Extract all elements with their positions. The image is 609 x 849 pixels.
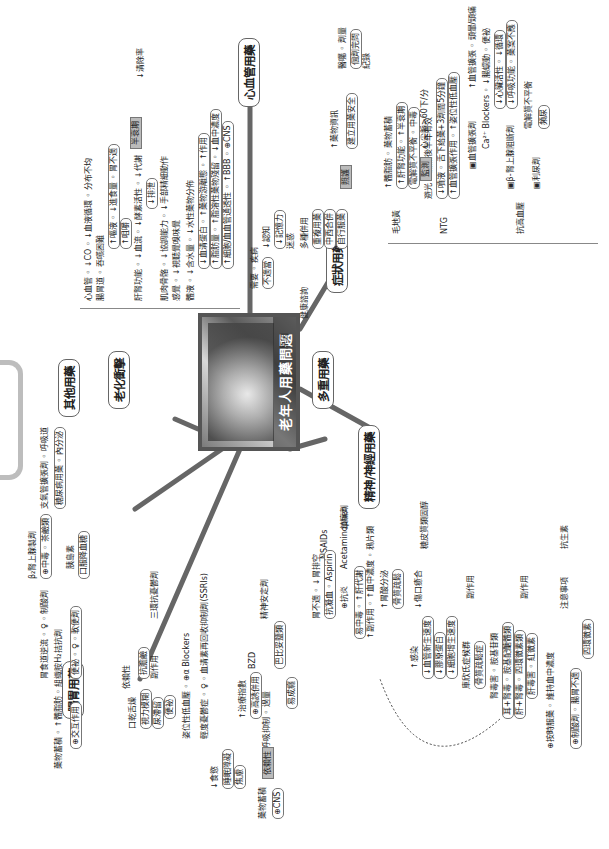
psych-bzd-item-1: ↑治療指數	[238, 680, 248, 719]
psych-tca-item-1: 口乾舌燥	[128, 697, 138, 729]
psych-tca-item-4: 便祕	[164, 695, 176, 719]
psych-tca-anticholinergic: 抗膽鹼	[138, 647, 150, 679]
cardio-antihtn: 抗高血壓	[516, 202, 526, 234]
symptom-nsaid-item-1: 胃不適 ◦ ↓胃排空	[312, 554, 322, 619]
cardio-ntg-item-3: ↑血管擴張作用 ◦ ↑姿位性低血壓	[448, 72, 460, 199]
cardio-ntg: NTG	[440, 217, 450, 234]
symptom-wound-item-4: ↓細胞增生速度	[446, 616, 458, 679]
psych-bzd-item-3: 呼吸抑制 ◦ 過量	[262, 691, 272, 749]
aging-row-7: 肌肉骨骼 ◦ ↓協調能力 ◦ ↓手部精細動作	[160, 156, 170, 301]
symptom-wound: ↓傷口癒合	[414, 570, 424, 609]
symptom-abx-note: 注意事項	[560, 577, 570, 609]
psych-dep-arrow-label: 依賴性	[122, 665, 132, 689]
psych-dependence: 依賴性	[262, 747, 274, 779]
aging-row-11: ↑脂肪量 ◦ ↑脂溶性藥物殘留 ◦ ↓血中濃度	[210, 109, 222, 269]
gi-row-2: 藥物蓄積 ◦ ↑體脂肪 ◦ 組織胺H₂拮抗劑	[54, 629, 64, 769]
poly-improper-item-1: ↓認知	[262, 226, 272, 249]
aging-row-5: 肝腎功能 ◦ ↓血流 ◦ ↓酵素活性 ◦ ↓代謝	[134, 155, 144, 301]
topic-psych[interactable]: 精神/神經用藥	[358, 425, 380, 509]
poly-improper-item-2: ↓記憶力	[274, 210, 286, 249]
poly-edu-item-3: 中西合併	[324, 209, 336, 249]
poly-care-item-1: ↑藥物資訊	[330, 110, 340, 149]
aging-row-9: 體液 ◦ ↓含水量 ◦ ↓水性藥物分佈	[186, 180, 196, 301]
symptom-steroid-side-item-1: 庫欣氏症候群	[462, 641, 472, 689]
cardio-digoxin-item-2: ↑肝腎功能 ◦ ↑半衰期	[396, 102, 408, 189]
symptom-antibiotic: 抗生素	[560, 525, 570, 549]
symptom-abx-side-item-4: 肝毒害 ◦ 紅黴素	[526, 633, 538, 699]
symptom-steroid: 糖皮質類固醇	[420, 501, 430, 549]
psych-ssri: 輕度憂鬱症 ◦ ♀ ◦ 血清素再回收抑制劑(SSRIs)	[200, 573, 210, 739]
psych-tca-ortho: 姿位性低血壓 ◦ ⊕α Blockers	[182, 633, 192, 739]
psych-ssri-item-3: 焦慮	[234, 765, 246, 789]
poly-improper: 不適當	[262, 257, 274, 289]
cardio-diuretic: ▣利尿劑	[532, 157, 542, 189]
symptom-abx-note-item-2: ⊕制酸劑 ◦ 腸胃不適	[570, 668, 582, 749]
poly-safety-item-2: 個劑完問	[350, 29, 362, 69]
symptom-abx-side-item-3: 肝+腎毒 ◦ 四環黴素類	[514, 630, 526, 719]
symptom-abx-side-item-2: 耳+腎毒 ◦ 胺基配醣體類	[502, 622, 514, 719]
symptom-abx-side: 副作用	[520, 575, 530, 599]
aging-row-2: 腸胃道 ◦ 吞嚥困難	[96, 235, 106, 301]
cardio-vasodilator: ▣血管擴張劑	[468, 121, 478, 169]
symptom-abx-note-item-3: 四環黴素	[582, 619, 594, 659]
cardio-digoxin: 毛地黃	[392, 210, 402, 234]
symptom-acet-item-1: ⊕抗炎	[340, 586, 350, 609]
other-sub2-2: 口服降血糖	[78, 531, 90, 579]
aging-row-3: ↑嘔液 ◦ ↓進食量 ◦ 胃不適	[108, 144, 120, 249]
poly-edu-item-1: 多種併用	[300, 217, 310, 249]
poly-edu-item-2: 重複用藥	[312, 209, 324, 249]
aging-row-8: 感覺 ◦ ↓視聽覺嗅味覺	[172, 220, 182, 301]
poly-cause: 原因	[280, 333, 290, 349]
poly-need: 需要 ◦ 疾病	[250, 247, 260, 289]
aging-row-12: ↑細胞/血血管通透性 ◦ ↑BBB ◦ ⊕CNS	[222, 121, 234, 269]
psych-bzd-sub: BZD	[248, 652, 258, 669]
topic-aging[interactable]: 老化衝擊	[108, 351, 130, 409]
symptom-wound-item-1: ↑感染	[410, 646, 420, 669]
cardio-beta-item: ↓呼吸功能 ◦ 藥案不應	[506, 20, 518, 109]
symptom-opioid-item-1: ↑胃酸分泌	[380, 570, 390, 609]
psych-tca-item-2: 視力模糊	[140, 689, 152, 729]
other-sub1-2: β₂腎上腺製劑	[28, 531, 38, 579]
aging-half-life: 半衰期	[130, 117, 142, 149]
cardio-ca-blocker: Ca²⁺ Blockers ◦ ↓腸蠕動 ◦ 便祕	[482, 28, 492, 149]
psych-bzd: 精神安定劑	[260, 579, 270, 619]
cardio-monitor: 監測	[420, 157, 432, 181]
cardio-ntg-item-2: ↓噴液 ◦ 舌下給藥+3劑間5分鐘	[436, 78, 448, 199]
other-sub2-1: 胰島素	[66, 545, 76, 569]
poly-care-item-2: 建立用藥安全	[346, 93, 358, 149]
poly-safety-item-3: 紀錄	[362, 53, 372, 69]
cardio-monitor-item: 心尖脈>60下/分	[420, 89, 430, 149]
aging-clearance: ↓清除率	[136, 48, 146, 79]
symptom-acetaminophen: Acetaminophen	[340, 506, 350, 569]
psych-tca-side: 副作用	[150, 655, 160, 679]
cardio-beta: ▣β-腎上腺阻斷劑	[506, 125, 516, 189]
topic-other[interactable]: 其他用藥	[58, 359, 80, 417]
symptom-steroid-side: 副作用	[466, 575, 476, 599]
mind-map-canvas: 老年人用藥問題 心血管用藥 症狀用藥 精神/神經用藥 腸胃用藥 其他用藥 老化衝…	[0, 0, 609, 849]
topic-poly[interactable]: 多重用藥	[312, 351, 334, 409]
symptom-opioid-item-2: 骨質疏鬆	[392, 569, 404, 609]
cardio-ca-item: ↓心臟活性 ◦ ↓循環	[494, 30, 506, 109]
psych-ssri-item-1: ↓食慾	[210, 766, 220, 789]
psych-dep-item-1: 藥物蓄積	[258, 787, 268, 819]
poly-care: 照護	[340, 165, 352, 189]
gi-interaction: ⊕交互作用	[70, 702, 82, 749]
aging-row-10: ↓血清蛋白 ◦ ↑藥物游離態 ◦ ↑作用	[198, 133, 210, 269]
symptom-acet-item-2: 易中毒 ◦ ↑肝代謝	[354, 566, 366, 639]
branch-connectors	[0, 0, 609, 849]
psych-barbiturate: 巴比妥鹽類	[274, 621, 286, 669]
cardio-vasodilator-item: ↑血管擴張 ◦ 頭暈/頭痛	[468, 6, 478, 89]
poly-improper-item-3: 迷惑	[286, 233, 296, 249]
elderly-medication-photo	[208, 323, 274, 441]
psych-tca-item-3: 尿滯留	[152, 697, 164, 729]
cardio-diuretic-item-1: 電解質不平衡	[524, 81, 534, 129]
gi-row-3: 便祕 ◦ ♀ ◦ 軟便劑	[70, 606, 82, 679]
cardio-digoxin-item-1: ↑體脂肪 ◦ 藥物蓄積	[384, 116, 394, 189]
psych-ssri-item-2: 睡眠障礙	[222, 749, 234, 789]
poly-edu-item-4: 自行服藥	[336, 209, 348, 249]
cardio-digoxin-item-3: 電解質不平衡 ◦ 中毒	[408, 107, 420, 189]
symptom-wound-item-3: ↓膠原蛋白	[434, 632, 446, 679]
topic-cardio[interactable]: 心血管用藥	[238, 38, 260, 107]
cardio-diuretic-item-2: 頻尿	[538, 105, 550, 129]
aging-row-4: ↑咀嚼	[120, 218, 132, 249]
